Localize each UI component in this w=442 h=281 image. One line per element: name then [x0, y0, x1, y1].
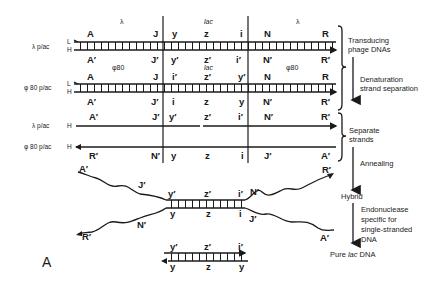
- svg-text:strand separation: strand separation: [360, 84, 418, 93]
- svg-text:z: z: [206, 261, 211, 272]
- svg-text:y: y: [170, 208, 176, 219]
- region-label-phi80-left: φ80: [112, 64, 124, 72]
- svg-text:N′: N′: [263, 54, 273, 65]
- row-label-lambda-plac-ss: λ p/ac: [32, 122, 50, 130]
- svg-text:i: i: [240, 28, 243, 39]
- svg-text:J′: J′: [138, 179, 146, 190]
- svg-text:z′: z′: [204, 241, 212, 252]
- step-hybrid: Hybrid: [341, 192, 363, 201]
- svg-text:i′: i′: [238, 111, 244, 122]
- svg-text:y′: y′: [238, 71, 246, 82]
- duplex-phi80-plac: φ 80 p/ac L H A J i′ z′ y′ N R A′ J′ i z…: [24, 71, 336, 107]
- region-label-lac-1: lac: [204, 18, 213, 25]
- svg-text:J′: J′: [152, 111, 160, 122]
- region-label-lambda-right: λ: [296, 18, 300, 25]
- svg-text:z: z: [204, 28, 209, 39]
- svg-text:N′: N′: [264, 111, 274, 122]
- strand-label-H: H: [67, 88, 72, 95]
- svg-text:y′: y′: [170, 241, 178, 252]
- row-label-phi80-plac: φ 80 p/ac: [24, 84, 52, 92]
- svg-text:R′: R′: [321, 111, 331, 122]
- svg-text:i: i: [241, 150, 244, 161]
- svg-text:i: i: [172, 96, 175, 107]
- svg-text:i′: i′: [236, 54, 242, 65]
- svg-text:y: y: [172, 28, 178, 39]
- pure-lac-duplex: y′ z′ i′ y z y: [161, 241, 248, 272]
- svg-text:N′: N′: [250, 186, 260, 197]
- svg-text:z: z: [205, 150, 210, 161]
- brace-transducing: [338, 26, 346, 110]
- duplex1-top-labels: A J y z i N R: [87, 28, 329, 39]
- process-steps: Transducing phage DNAs Denaturation stra…: [330, 26, 418, 259]
- svg-text:H: H: [67, 143, 72, 150]
- svg-text:J′: J′: [249, 213, 257, 224]
- svg-text:A: A: [87, 71, 94, 82]
- svg-text:R′: R′: [89, 150, 99, 161]
- svg-text:R′: R′: [82, 231, 92, 242]
- svg-text:y: y: [170, 261, 176, 272]
- svg-text:R: R: [322, 28, 329, 39]
- region-label-lac-2: lac: [204, 64, 213, 71]
- svg-text:A′: A′: [79, 163, 89, 174]
- svg-text:y′: y′: [171, 54, 179, 65]
- svg-text:z: z: [204, 96, 209, 107]
- svg-text:y′: y′: [169, 111, 177, 122]
- svg-text:strands: strands: [349, 135, 374, 144]
- step-transducing: Transducing: [348, 36, 389, 45]
- svg-text:y: y: [171, 150, 177, 161]
- svg-text:H: H: [67, 122, 72, 129]
- svg-text:z′: z′: [204, 71, 212, 82]
- strand-label-L: L: [67, 80, 71, 87]
- lac-isolation-diagram: λ lac λ λ p/ac L H A J y z i N R A′ J′ y…: [0, 0, 442, 281]
- svg-text:y: y: [239, 96, 245, 107]
- svg-text:z′: z′: [204, 111, 212, 122]
- duplex2-bottom-labels: A′ J′ i z y N′ R′: [87, 96, 331, 107]
- svg-text:i′: i′: [238, 241, 244, 252]
- svg-text:specific for: specific for: [361, 215, 397, 224]
- svg-text:A′: A′: [87, 96, 97, 107]
- region-label-phi80-right: φ80: [286, 64, 298, 72]
- svg-text:A′: A′: [321, 150, 331, 161]
- svg-text:A′: A′: [89, 111, 99, 122]
- strand-label-L: L: [67, 38, 71, 45]
- single-strand-lambda: λ p/ac H A′ J′ y′ z′ i′ N′ R′: [32, 111, 336, 130]
- svg-text:J′: J′: [151, 54, 159, 65]
- duplex-lambda-plac: λ p/ac L H A J y z i N R A′ J′ y′ z′ i′ …: [32, 28, 336, 65]
- row-label-phi80-plac-ss: φ 80 p/ac: [24, 143, 52, 151]
- svg-text:J: J: [153, 71, 158, 82]
- svg-text:y: y: [239, 261, 245, 272]
- figure-label: A: [42, 254, 52, 270]
- svg-text:R′: R′: [322, 164, 332, 175]
- brace-separate: [338, 113, 346, 161]
- svg-text:R′: R′: [321, 96, 331, 107]
- region-label-lambda-left: λ: [120, 18, 124, 25]
- step-separate: Separate: [349, 126, 379, 135]
- hybrid-molecule: A′ J′ y′ z′ i′ y z i N′ R′ N′ R′ J′ A′: [76, 163, 334, 243]
- svg-text:DNA: DNA: [361, 235, 377, 244]
- svg-text:N′: N′: [151, 150, 161, 161]
- svg-text:phage DNAs: phage DNAs: [348, 45, 391, 54]
- svg-text:R′: R′: [321, 54, 331, 65]
- svg-text:A′: A′: [320, 232, 330, 243]
- svg-text:A′: A′: [87, 54, 97, 65]
- step-endonuclease: Endonuclease: [361, 205, 409, 214]
- svg-text:J′: J′: [151, 96, 159, 107]
- svg-text:single-stranded: single-stranded: [361, 225, 412, 234]
- step-pure-lac: Pure lac DNA: [330, 250, 375, 259]
- svg-text:y′: y′: [168, 188, 176, 199]
- svg-text:z: z: [206, 208, 211, 219]
- svg-text:i′: i′: [238, 188, 244, 199]
- svg-text:N: N: [264, 71, 271, 82]
- svg-text:N′: N′: [137, 219, 147, 230]
- row-label-lambda-plac: λ p/ac: [32, 43, 50, 51]
- svg-text:i: i: [239, 208, 242, 219]
- svg-text:N: N: [264, 28, 271, 39]
- svg-text:A: A: [87, 28, 94, 39]
- svg-text:z′: z′: [204, 188, 212, 199]
- svg-text:J: J: [153, 28, 158, 39]
- strand-label-H: H: [67, 46, 72, 53]
- svg-text:i′: i′: [172, 71, 178, 82]
- duplex2-top-labels: A J i′ z′ y′ N R: [87, 71, 329, 82]
- svg-text:J′: J′: [264, 150, 272, 161]
- step-denaturation: Denaturation: [360, 75, 403, 84]
